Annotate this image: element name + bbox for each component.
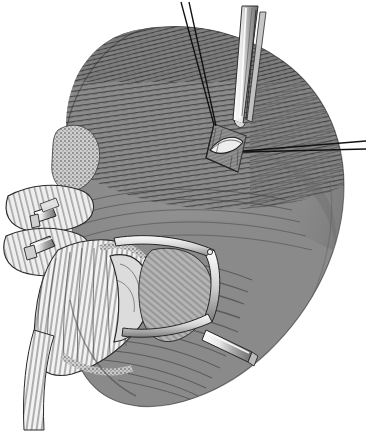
surgical-illustration-figure: Surgical exposure of a kidney with nephr… — [0, 0, 370, 448]
illustration-canvas — [0, 0, 370, 448]
retractor-pivot — [207, 249, 212, 254]
